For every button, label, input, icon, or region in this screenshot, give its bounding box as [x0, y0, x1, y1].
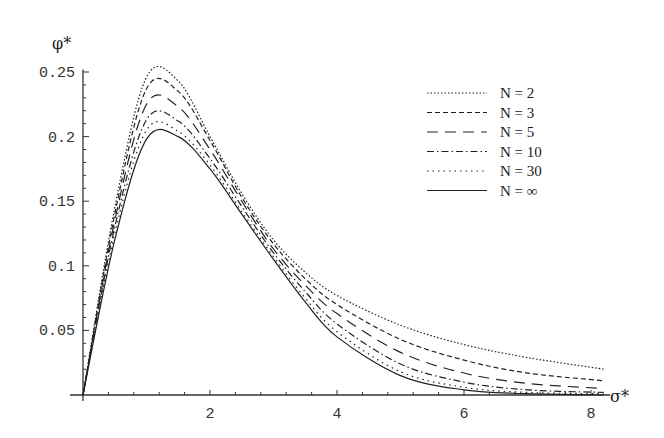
- legend-label: N = 2: [500, 85, 534, 101]
- y-tick-label: 0.25: [39, 65, 75, 82]
- legend-item: N = 3: [427, 105, 534, 121]
- chart: 24680.050.10.150.20.25 N = 2N = 3N = 5N …: [0, 0, 664, 438]
- x-axis-title: σ*: [610, 387, 629, 406]
- y-tick-label: 0.05: [39, 323, 75, 340]
- legend-label: N = 10: [500, 144, 542, 160]
- y-tick-label: 0.2: [48, 130, 75, 147]
- legend-label: N = 5: [500, 124, 534, 140]
- legend: N = 2N = 3N = 5N = 10N = 30N = ∞: [427, 85, 542, 199]
- y-tick-label: 0.1: [48, 259, 75, 276]
- legend-label: N = ∞: [500, 183, 538, 199]
- x-tick-label: 4: [332, 406, 341, 423]
- x-tick-label: 8: [586, 406, 595, 423]
- legend-item: N = 30: [427, 163, 542, 179]
- y-axis-title: φ*: [52, 34, 71, 53]
- legend-item: N = 5: [427, 124, 534, 140]
- y-tick-label: 0.15: [39, 194, 75, 211]
- x-tick-label: 2: [205, 406, 214, 423]
- legend-label: N = 30: [500, 163, 542, 179]
- legend-item: N = 2: [427, 85, 534, 101]
- legend-item: N = ∞: [427, 183, 538, 199]
- legend-label: N = 3: [500, 105, 534, 121]
- x-tick-label: 6: [459, 406, 468, 423]
- legend-item: N = 10: [427, 144, 542, 160]
